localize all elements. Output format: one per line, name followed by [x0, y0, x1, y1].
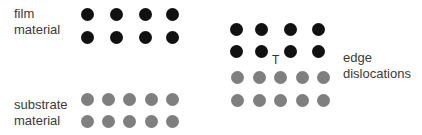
edge-dislocation-symbol-icon: T — [272, 54, 279, 66]
substrate-atom — [231, 71, 244, 84]
film-atom — [81, 8, 94, 21]
film-atom — [255, 45, 268, 58]
edge-dislocations-label: edge dislocations — [343, 50, 411, 82]
substrate-atom — [253, 71, 266, 84]
film-atom — [139, 31, 152, 44]
dislocation-label-line1: edge — [343, 50, 411, 66]
film-label-line2: material — [14, 22, 60, 38]
film-atom — [230, 45, 243, 58]
film-atom — [166, 8, 179, 21]
substrate-atom — [123, 93, 136, 106]
substrate-atom — [274, 94, 287, 107]
film-atom — [284, 45, 297, 58]
film-material-label: film material — [14, 6, 60, 38]
substrate-atom — [81, 115, 94, 128]
substrate-material-label: substrate material — [14, 97, 67, 129]
substrate-atom — [231, 94, 244, 107]
film-atom — [166, 31, 179, 44]
substrate-label-line2: material — [14, 113, 67, 129]
substrate-atom — [317, 71, 330, 84]
film-atom — [230, 23, 243, 36]
substrate-atom — [296, 71, 309, 84]
substrate-atom — [102, 115, 115, 128]
film-atom — [110, 8, 123, 21]
substrate-atom — [166, 93, 179, 106]
substrate-atom — [166, 115, 179, 128]
film-atom — [110, 31, 123, 44]
film-atom — [312, 23, 325, 36]
substrate-atom — [317, 94, 330, 107]
film-atom — [284, 23, 297, 36]
film-atom — [81, 31, 94, 44]
substrate-atom — [145, 93, 158, 106]
substrate-atom — [296, 94, 309, 107]
film-label-line1: film — [14, 6, 60, 22]
dislocation-label-line2: dislocations — [343, 66, 411, 82]
film-atom — [312, 45, 325, 58]
substrate-atom — [145, 115, 158, 128]
substrate-atom — [123, 115, 136, 128]
substrate-atom — [102, 93, 115, 106]
substrate-atom — [274, 71, 287, 84]
substrate-atom — [81, 93, 94, 106]
substrate-atom — [253, 94, 266, 107]
film-atom — [139, 8, 152, 21]
film-atom — [255, 23, 268, 36]
substrate-label-line1: substrate — [14, 97, 67, 113]
